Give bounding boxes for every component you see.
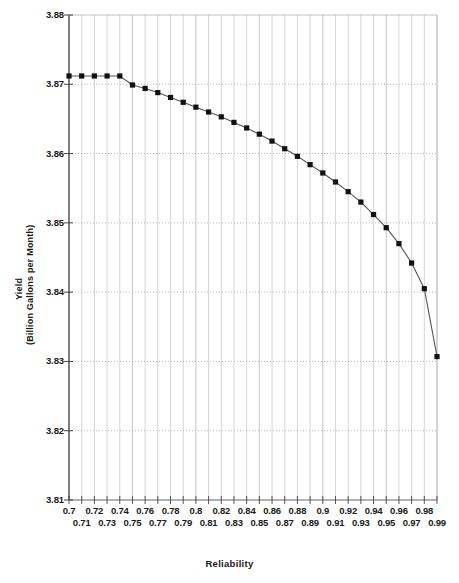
data-point-marker xyxy=(295,154,300,159)
data-point-marker xyxy=(79,73,84,78)
x-tick-label: 0.98 xyxy=(407,505,441,516)
data-point-marker xyxy=(244,125,249,130)
x-axis-title: Reliability xyxy=(0,558,459,569)
data-point-marker xyxy=(282,146,287,151)
series-markers xyxy=(66,73,439,359)
data-point-marker xyxy=(371,212,376,217)
data-point-marker xyxy=(104,73,109,78)
data-point-marker xyxy=(143,86,148,91)
x-tick-label: 0.99 xyxy=(420,517,454,528)
data-point-marker xyxy=(193,105,198,110)
data-point-marker xyxy=(320,170,325,175)
data-point-marker xyxy=(422,286,427,291)
data-point-marker xyxy=(66,73,71,78)
data-point-marker xyxy=(219,114,224,119)
data-point-marker xyxy=(269,139,274,144)
data-point-marker xyxy=(181,100,186,105)
data-point-marker xyxy=(130,82,135,87)
data-point-marker xyxy=(333,179,338,184)
data-point-marker xyxy=(117,73,122,78)
data-point-marker xyxy=(434,354,439,359)
chart-figure: Yield (Billion Gallons per Month) 3.883.… xyxy=(0,0,459,583)
data-point-marker xyxy=(396,241,401,246)
series-line xyxy=(69,76,437,357)
data-point-marker xyxy=(92,73,97,78)
data-point-marker xyxy=(257,132,262,137)
plot-area xyxy=(0,0,459,583)
data-point-marker xyxy=(308,162,313,167)
data-point-marker xyxy=(409,260,414,265)
data-point-marker xyxy=(384,225,389,230)
data-point-marker xyxy=(358,199,363,204)
axis-frame xyxy=(69,15,437,500)
data-point-marker xyxy=(168,95,173,100)
data-point-marker xyxy=(155,90,160,95)
data-point-marker xyxy=(346,189,351,194)
data-point-marker xyxy=(231,120,236,125)
gridlines-major xyxy=(69,84,437,430)
data-point-marker xyxy=(206,109,211,114)
gridlines-minor xyxy=(69,15,437,500)
